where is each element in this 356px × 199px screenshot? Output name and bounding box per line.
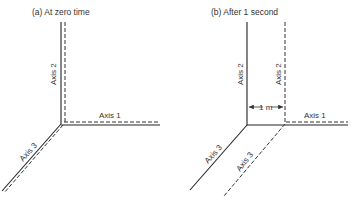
panel-b-axis2-dashed-label: Axis 2 xyxy=(274,63,283,85)
panel-a: (a) At zero time Axis 2 Axis 1 Axis 3 xyxy=(2,7,160,193)
panel-b-axis3-solid xyxy=(190,125,247,190)
panel-a-axis3-dashed xyxy=(4,125,63,193)
panel-a-caption: (a) At zero time xyxy=(32,7,90,17)
frames-diagram: (a) At zero time Axis 2 Axis 1 Axis 3 (b… xyxy=(0,0,356,199)
displacement-label: 1 m xyxy=(259,103,273,112)
panel-b-axis3-dashed-label: Axis 3 xyxy=(234,150,255,173)
panel-b-axis3-dashed xyxy=(224,124,285,196)
panel-b-caption: (b) After 1 second xyxy=(211,7,278,17)
panel-a-axis3-solid xyxy=(2,124,61,191)
panel-a-axis1-label: Axis 1 xyxy=(99,111,121,120)
panel-a-axis2-label: Axis 2 xyxy=(49,63,58,85)
panel-b-axis2-solid-label: Axis 2 xyxy=(236,63,245,85)
panel-b: (b) After 1 second 1 m Axis 2 Axis 2 Axi… xyxy=(190,7,348,196)
panel-b-axis1-label: Axis 1 xyxy=(304,111,326,120)
